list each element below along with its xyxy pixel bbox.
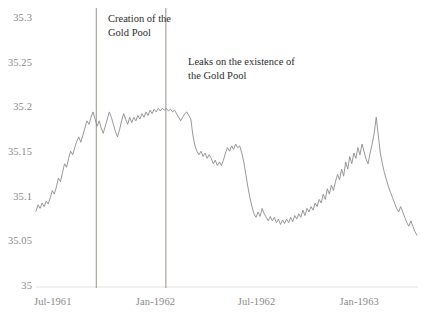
chart-canvas — [0, 0, 425, 323]
y-tick-label: 35 — [21, 280, 32, 291]
data-series-group — [36, 108, 417, 235]
x-tick-label: Jul-1962 — [238, 296, 276, 307]
x-tick-label: Jan-1963 — [340, 296, 379, 307]
x-tick-label: Jan-1962 — [136, 296, 175, 307]
y-tick-label: 35.25 — [8, 57, 32, 68]
series-line — [36, 108, 417, 235]
y-tick-label: 35.2 — [13, 101, 32, 112]
annotation-lines-group — [96, 8, 166, 288]
y-tick-label: 35.1 — [13, 191, 32, 202]
y-tick-label: 35.3 — [13, 12, 32, 23]
annotation-label-leaks-on-existence: Leaks on the existence of the Gold Pool — [188, 55, 295, 83]
x-tick-label: Jul-1961 — [34, 296, 72, 307]
gold-price-chart: 3535.0535.135.1535.235.2535.3 Jul-1961Ja… — [0, 0, 425, 323]
y-tick-label: 35.05 — [8, 235, 32, 246]
y-tick-label: 35.15 — [8, 146, 32, 157]
annotation-label-creation-of-gold-pool: Creation of the Gold Pool — [108, 12, 171, 40]
